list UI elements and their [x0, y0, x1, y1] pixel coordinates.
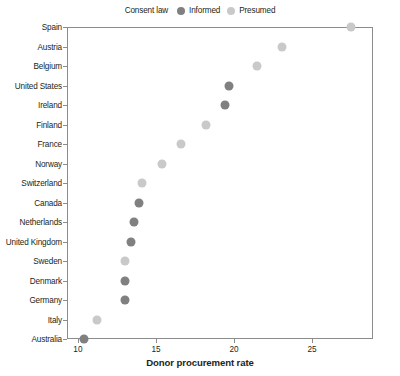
legend-label-presumed: Presumed [239, 6, 275, 15]
data-point-denmark[interactable] [120, 276, 129, 285]
y-axis-tick [63, 164, 67, 165]
y-axis-tick [63, 222, 67, 223]
y-axis-label-italy: Italy [48, 315, 62, 324]
legend-swatch-informed [177, 7, 185, 15]
data-point-australia[interactable] [80, 335, 89, 344]
y-axis-label-austria: Austria [38, 42, 62, 51]
donor-procurement-rate-chart: Consent law Informed Presumed SpainAustr… [0, 0, 400, 376]
plot-frame-right [372, 27, 373, 339]
x-axis-tick [234, 339, 235, 343]
y-axis-tick [63, 203, 67, 204]
y-axis-tick [63, 105, 67, 106]
y-axis-tick [63, 300, 67, 301]
y-axis-label-united-kingdom: United Kingdom [6, 237, 62, 246]
y-axis-label-ireland: Ireland [38, 101, 62, 110]
y-axis-tick [63, 281, 67, 282]
data-point-france[interactable] [176, 140, 185, 149]
y-axis-label-spain: Spain [42, 23, 62, 32]
y-axis-tick [63, 27, 67, 28]
y-axis-label-norway: Norway [35, 159, 62, 168]
y-axis-tick [63, 86, 67, 87]
y-axis-tick [63, 125, 67, 126]
data-point-canada[interactable] [134, 198, 143, 207]
x-axis-tick-label: 25 [308, 345, 317, 354]
y-axis-tick [63, 66, 67, 67]
data-point-norway[interactable] [158, 159, 167, 168]
data-point-switzerland[interactable] [137, 179, 146, 188]
chart-legend: Consent law Informed Presumed [0, 6, 400, 15]
data-point-spain[interactable] [347, 23, 356, 32]
y-axis-label-australia: Australia [31, 335, 62, 344]
data-point-ireland[interactable] [220, 101, 229, 110]
y-axis-tick [63, 183, 67, 184]
y-axis-label-germany: Germany [29, 296, 62, 305]
legend-swatch-presumed [227, 7, 235, 15]
y-axis-label-switzerland: Switzerland [21, 179, 62, 188]
data-point-netherlands[interactable] [130, 218, 139, 227]
y-axis-label-netherlands: Netherlands [20, 218, 63, 227]
x-axis-tick-label: 15 [151, 345, 160, 354]
y-axis-label-united-states: United States [15, 81, 62, 90]
y-axis-label-france: France [37, 140, 62, 149]
y-axis-tick [63, 320, 67, 321]
y-axis-tick [63, 47, 67, 48]
data-point-belgium[interactable] [253, 62, 262, 71]
x-axis-tick [78, 339, 79, 343]
y-axis-tick [63, 144, 67, 145]
data-point-united-states[interactable] [225, 81, 234, 90]
y-axis-label-belgium: Belgium [33, 62, 62, 71]
x-axis-tick [312, 339, 313, 343]
data-point-germany[interactable] [120, 296, 129, 305]
legend-label-informed: Informed [189, 6, 220, 15]
x-axis-tick-label: 20 [229, 345, 238, 354]
data-point-finland[interactable] [201, 120, 210, 129]
legend-title: Consent law [125, 6, 168, 15]
y-axis-label-denmark: Denmark [30, 276, 62, 285]
legend-entry-presumed[interactable]: Presumed [227, 6, 275, 15]
y-axis-tick [63, 339, 67, 340]
x-axis-tick-label: 10 [73, 345, 82, 354]
plot-area [67, 27, 373, 339]
legend-entry-informed[interactable]: Informed [177, 6, 220, 15]
y-axis-label-canada: Canada [34, 198, 62, 207]
y-axis-tick [63, 261, 67, 262]
data-point-italy[interactable] [92, 315, 101, 324]
y-axis-label-sweden: Sweden [33, 257, 62, 266]
y-axis-label-finland: Finland [36, 120, 62, 129]
data-point-united-kingdom[interactable] [127, 237, 136, 246]
plot-frame-top [67, 27, 373, 28]
data-point-austria[interactable] [278, 42, 287, 51]
x-axis-tick [156, 339, 157, 343]
data-point-sweden[interactable] [120, 257, 129, 266]
x-axis-title: Donor procurement rate [0, 357, 400, 368]
y-axis-tick [63, 242, 67, 243]
